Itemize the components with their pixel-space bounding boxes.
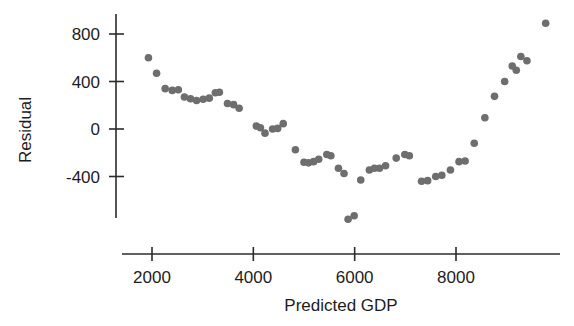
data-point: [327, 152, 335, 160]
data-point: [161, 85, 169, 93]
data-point: [205, 94, 213, 102]
data-point: [424, 177, 432, 185]
data-point: [216, 88, 224, 96]
data-point: [512, 66, 520, 74]
data-point: [235, 104, 243, 112]
data-point: [406, 152, 414, 160]
y-axis-label: Residual: [16, 97, 35, 163]
data-point: [175, 86, 183, 94]
data-point: [335, 164, 343, 172]
x-tick-label: 4000: [234, 268, 272, 287]
data-point: [193, 97, 201, 105]
data-point: [470, 139, 478, 147]
data-point: [315, 155, 323, 163]
data-point: [481, 114, 489, 122]
data-point: [340, 170, 348, 178]
data-point: [279, 120, 287, 128]
data-point-group: [145, 20, 550, 224]
data-point: [542, 20, 550, 28]
data-point: [523, 57, 531, 65]
y-tick-label: 400: [72, 73, 100, 92]
y-tick-label: 0: [91, 120, 100, 139]
x-tick-label: 2000: [133, 268, 171, 287]
y-tick-label: -400: [66, 168, 100, 187]
data-point: [382, 162, 390, 170]
scatter-plot-figure: -4000400800 2000400060008000 Predicted G…: [0, 0, 574, 326]
data-point: [350, 212, 358, 220]
data-point: [292, 146, 300, 154]
data-point: [357, 176, 365, 184]
y-tick-label: 800: [72, 25, 100, 44]
x-tick-label: 8000: [437, 268, 475, 287]
x-axis-label: Predicted GDP: [284, 296, 397, 315]
data-point: [491, 93, 499, 101]
data-point: [261, 129, 269, 137]
data-point: [145, 54, 153, 62]
x-tick-group: 2000400060008000: [133, 247, 475, 287]
data-point: [447, 166, 455, 174]
data-point: [153, 69, 161, 77]
data-point: [392, 154, 400, 162]
data-point: [438, 172, 446, 180]
data-point: [501, 78, 509, 86]
data-point: [461, 157, 469, 165]
x-tick-label: 6000: [336, 268, 374, 287]
residual-vs-predicted-gdp-chart: -4000400800 2000400060008000 Predicted G…: [0, 0, 574, 326]
